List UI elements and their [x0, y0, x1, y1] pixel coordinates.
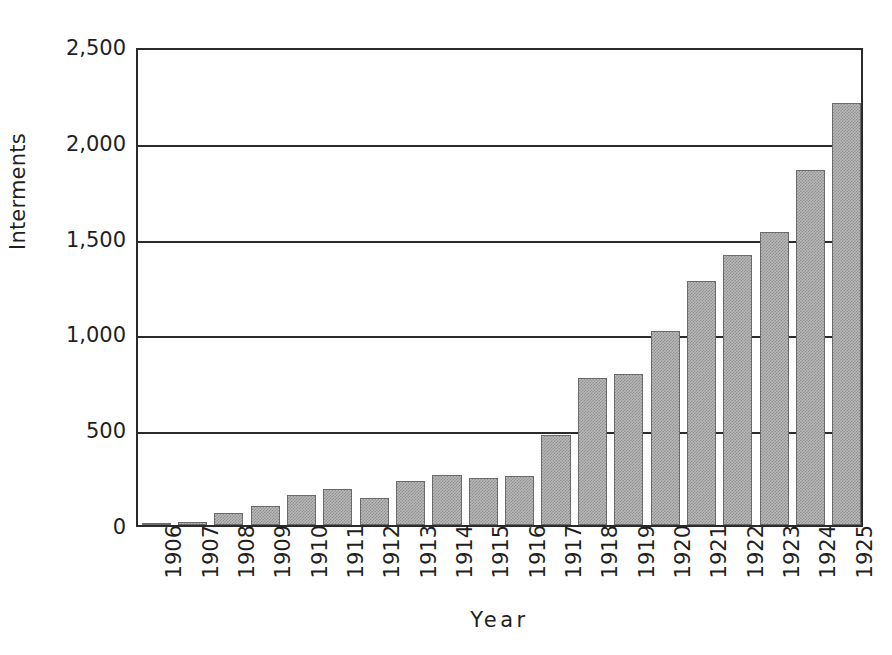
x-tick-label: 1920 — [671, 525, 695, 605]
x-axis-title: Year — [136, 608, 863, 632]
bar-series — [138, 50, 861, 525]
x-tick-label: 1910 — [308, 525, 332, 605]
y-axis-title: Interments — [6, 90, 36, 250]
x-tick-label: 1919 — [635, 525, 659, 605]
y-tick-label: 2,000 — [42, 132, 126, 156]
x-tick-label: 1911 — [344, 525, 368, 605]
x-tick-label: 1908 — [235, 525, 259, 605]
y-tick-label: 0 — [42, 515, 126, 539]
x-tick-label: 1922 — [744, 525, 768, 605]
x-tick-label: 1916 — [526, 525, 550, 605]
x-tick-label: 1912 — [380, 525, 404, 605]
x-tick-label: 1909 — [271, 525, 295, 605]
bar — [287, 495, 316, 525]
plot-area — [136, 48, 863, 527]
x-tick-label: 1925 — [853, 525, 877, 605]
bar-chart-figure: Interments 05001,0001,5002,0002,500 1906… — [0, 0, 892, 655]
x-tick-label: 1913 — [417, 525, 441, 605]
bar — [432, 475, 461, 525]
y-tick-label: 500 — [42, 419, 126, 443]
bar — [723, 255, 752, 525]
x-tick-label: 1915 — [489, 525, 513, 605]
x-tick-label: 1917 — [562, 525, 586, 605]
x-tick-label: 1907 — [199, 525, 223, 605]
bar — [614, 374, 643, 525]
bar — [360, 498, 389, 525]
y-tick-label: 2,500 — [42, 36, 126, 60]
x-tick-label: 1918 — [598, 525, 622, 605]
bar — [469, 478, 498, 525]
y-tick-label: 1,500 — [42, 228, 126, 252]
x-tick-label: 1924 — [816, 525, 840, 605]
x-tick-label: 1906 — [162, 525, 186, 605]
bar — [578, 378, 607, 525]
bar — [396, 481, 425, 525]
x-tick-label: 1923 — [780, 525, 804, 605]
bar — [323, 489, 352, 525]
bar — [214, 513, 243, 525]
bar — [796, 170, 825, 525]
x-tick-label: 1921 — [707, 525, 731, 605]
bar — [251, 506, 280, 525]
x-tick-label: 1914 — [453, 525, 477, 605]
bar — [832, 103, 861, 525]
y-tick-label: 1,000 — [42, 323, 126, 347]
x-axis-tick-labels: 1906190719081909191019111912191319141915… — [136, 531, 863, 611]
bar — [505, 476, 534, 525]
y-axis-tick-labels: 05001,0001,5002,0002,500 — [42, 0, 126, 655]
bar — [541, 435, 570, 525]
bar — [760, 232, 789, 525]
bar — [687, 281, 716, 525]
bar — [651, 331, 680, 525]
